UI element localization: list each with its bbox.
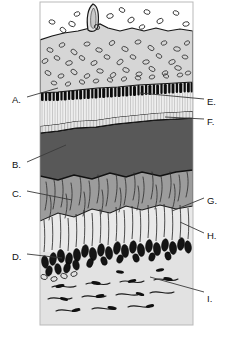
figure-canvas: A.B.C.D.E.F.G.H.I.	[0, 0, 227, 341]
label-c: C.	[12, 189, 22, 199]
tissue-body	[40, 4, 193, 325]
label-e: E.	[207, 97, 216, 107]
granular-pale-layer	[40, 24, 193, 93]
label-g: G.	[207, 196, 217, 206]
label-a: A.	[12, 95, 21, 105]
label-i: I.	[207, 294, 212, 304]
label-h: H.	[207, 231, 217, 241]
histology-diagram	[0, 0, 227, 341]
label-b: B.	[12, 160, 21, 170]
label-d: D.	[12, 252, 22, 262]
label-f: F.	[207, 117, 214, 127]
